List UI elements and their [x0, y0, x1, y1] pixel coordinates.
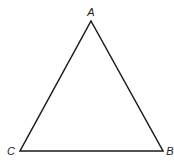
vertex-label-b: B [166, 145, 173, 157]
vertex-label-c: C [7, 145, 15, 157]
vertex-label-a: A [86, 6, 94, 18]
triangle-diagram: A B C [0, 0, 174, 161]
triangle-abc [20, 21, 163, 151]
